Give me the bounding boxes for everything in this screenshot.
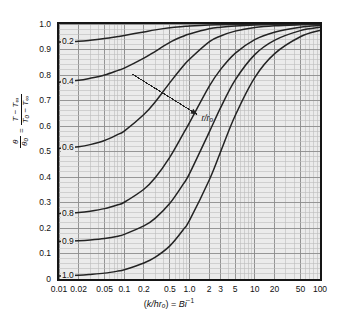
arrow-head-icon <box>190 109 197 115</box>
den-inf-sub: ∞ <box>23 96 30 101</box>
y-axis-title: θ θo = T − T∞ To − T∞ <box>6 73 36 169</box>
theta-sub: o <box>22 138 29 142</box>
num-Tinf: T <box>11 103 20 108</box>
den-Tinf: T <box>21 101 30 106</box>
x-title-sup: −1 <box>187 297 194 304</box>
x-tick-20: 20 <box>270 284 279 294</box>
den-minus: − <box>21 106 30 115</box>
y-tick-1.0: 1.0 <box>0 20 55 29</box>
y-tick-0.2: 0.2 <box>0 224 55 233</box>
theta-symbol-den: θ <box>20 142 29 146</box>
x-tick-3: 3 <box>218 284 223 294</box>
y-tick-0.1: 0.1 <box>0 249 55 258</box>
x-tick-0.5: 0.5 <box>164 284 176 294</box>
x-tick-50: 50 <box>296 284 305 294</box>
num-minus: − <box>11 107 20 116</box>
x-tick-10: 10 <box>250 284 259 294</box>
x-tick-0.02: 0.02 <box>70 284 87 294</box>
den-0-sub: o <box>23 115 30 119</box>
x-title-mid: ) = <box>165 299 178 309</box>
y-axis-equals: = <box>17 125 26 136</box>
r-over-r0-annotation-label: r/ro <box>201 113 213 123</box>
figure-container: 00.10.20.30.40.50.60.70.80.91.0 θ θo = T… <box>0 0 338 323</box>
den-T0: T <box>21 118 30 123</box>
y-axis-theta-ratio: θ θo <box>12 136 30 148</box>
theta-symbol: θ <box>11 140 20 144</box>
x-axis-tick-labels: 0.010.020.050.10.20.51.0235102050100 <box>0 284 338 298</box>
y-tick-0.9: 0.9 <box>0 45 55 54</box>
x-tick-0.05: 0.05 <box>96 284 113 294</box>
x-tick-1.0: 1.0 <box>184 284 196 294</box>
plot-area: 0.20.40.60.80.91.0 r/ro <box>57 22 322 281</box>
y-axis-temperature-ratio: T − T∞ To − T∞ <box>12 94 31 125</box>
y-tick-0.3: 0.3 <box>0 198 55 207</box>
x-tick-2: 2 <box>207 284 212 294</box>
x-tick-100: 100 <box>313 284 327 294</box>
x-tick-0.1: 0.1 <box>118 284 130 294</box>
x-axis-title: (k/hro) = Bi−1 <box>0 297 338 309</box>
x-tick-0.2: 0.2 <box>138 284 150 294</box>
num-T: T <box>11 117 20 122</box>
x-title-bi: Bi <box>179 299 187 309</box>
y-tick-0: 0 <box>0 275 55 284</box>
x-title-k-hr: k/hr <box>147 299 162 309</box>
x-tick-5: 5 <box>233 284 238 294</box>
annotation-r0-sub: o <box>209 116 213 123</box>
y-tick-0.4: 0.4 <box>0 173 55 182</box>
annotation-arrow <box>59 24 320 279</box>
num-inf-sub: ∞ <box>13 98 20 103</box>
x-tick-0.01: 0.01 <box>51 284 68 294</box>
